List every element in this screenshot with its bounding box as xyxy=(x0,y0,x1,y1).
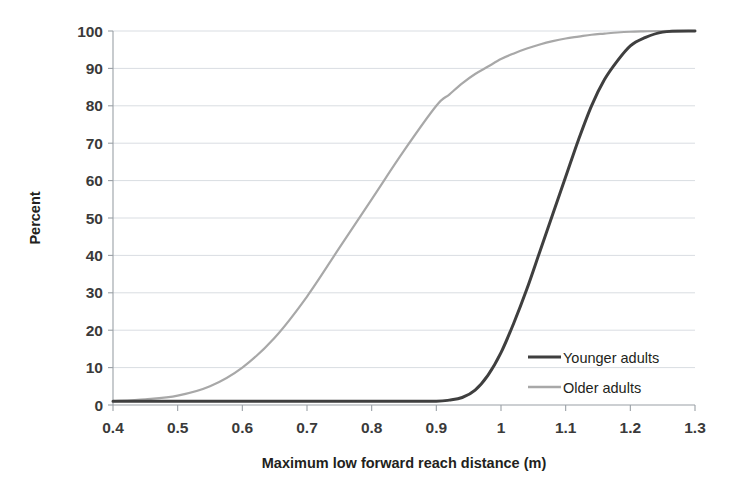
y-tick-label: 70 xyxy=(86,135,103,152)
y-tick-label: 0 xyxy=(94,397,103,414)
y-tick-label: 80 xyxy=(86,97,103,114)
y-tick-label: 60 xyxy=(86,172,103,189)
x-tick-label: 0.7 xyxy=(296,419,318,436)
x-tick-label: 0.6 xyxy=(232,419,254,436)
y-axis-title: Percent xyxy=(27,191,43,244)
x-tick-label: 1 xyxy=(497,419,506,436)
x-tick-label: 1.3 xyxy=(684,419,706,436)
y-tick-label: 50 xyxy=(86,210,103,227)
x-axis-title: Maximum low forward reach distance (m) xyxy=(262,455,547,471)
cumulative-percent-line-chart: 0.40.50.60.70.80.911.11.21.3 01020304050… xyxy=(0,0,744,496)
y-tick-label: 40 xyxy=(86,247,103,264)
y-tick-label: 20 xyxy=(86,322,103,339)
legend-label-younger-adults[interactable]: Younger adults xyxy=(563,350,659,366)
y-tick-label: 90 xyxy=(86,60,103,77)
x-tick-label: 1.2 xyxy=(620,419,642,436)
x-tick-label: 0.9 xyxy=(426,419,448,436)
y-tick-label: 30 xyxy=(86,284,103,301)
y-tick-label: 10 xyxy=(86,359,103,376)
x-tick-label: 0.4 xyxy=(102,419,124,436)
chart-figure: 0.40.50.60.70.80.911.11.21.3 01020304050… xyxy=(0,0,744,496)
x-tick-label: 1.1 xyxy=(555,419,577,436)
legend-label-older-adults[interactable]: Older adults xyxy=(563,380,641,396)
x-tick-label: 0.8 xyxy=(361,419,383,436)
x-tick-label: 0.5 xyxy=(167,419,189,436)
y-tick-label: 100 xyxy=(77,23,103,40)
